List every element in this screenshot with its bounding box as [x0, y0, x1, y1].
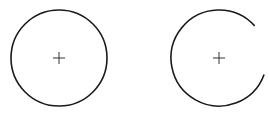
full-circle-center-marker [53, 52, 65, 64]
diagram-canvas [0, 0, 269, 117]
open-arc-center-marker [213, 52, 225, 64]
